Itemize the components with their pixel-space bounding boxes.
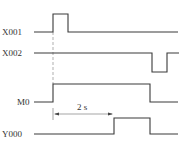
signal-waveform-x001 (34, 14, 178, 32)
arrowhead-right-icon (108, 113, 113, 116)
signal-waveform-x002 (34, 53, 179, 72)
signal-label-m0: M0 (17, 97, 30, 107)
delay-label: 2 s (77, 102, 88, 112)
signal-waveform-m0 (34, 84, 178, 102)
signal-waveform-y000 (34, 118, 178, 134)
arrowhead-left-icon (54, 113, 59, 116)
signal-label-y000: Y000 (2, 129, 22, 139)
signal-label-x001: X001 (2, 27, 22, 37)
signal-label-x002: X002 (2, 48, 22, 58)
delay-dimension: 2 s (53, 102, 113, 120)
timing-diagram: X001 X002 M0 Y000 2 s (0, 0, 189, 147)
